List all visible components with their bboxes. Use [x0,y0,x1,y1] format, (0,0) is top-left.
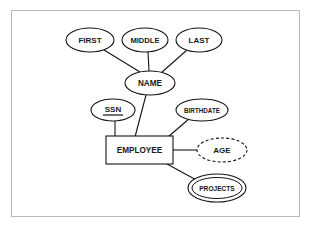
edge-name-to-employee [135,95,146,137]
attribute-node-middle[interactable]: MIDDLE [122,28,168,52]
projects-label: PROJECTS [199,185,235,192]
attribute-node-birthdate[interactable]: BIRTHDATE [176,99,228,121]
middle-label: MIDDLE [130,36,159,45]
name-label: NAME [138,79,163,88]
attribute-node-ssn[interactable]: SSN [91,99,135,121]
edge-first-to-name [104,50,140,72]
last-label: LAST [189,36,210,45]
attribute-node-age[interactable]: AGE [197,138,247,162]
age-label: AGE [213,146,231,155]
edge-birthdate-to-employee [168,118,190,137]
attribute-node-first[interactable]: FIRST [66,28,114,52]
employee-label: EMPLOYEE [117,146,163,155]
attribute-node-projects[interactable]: PROJECTS [188,174,246,202]
attribute-node-last[interactable]: LAST [176,28,222,52]
ssn-label: SSN [105,105,122,114]
birthdate-label: BIRTHDATE [184,107,220,114]
er-diagram-svg: FIRST MIDDLE LAST NAME SSN BIRTHDATE [0,0,311,229]
entity-node-employee[interactable]: EMPLOYEE [106,136,173,164]
first-label: FIRST [78,36,101,45]
edge-middle-to-name [148,52,149,71]
attribute-node-name[interactable]: NAME [125,71,175,95]
edge-last-to-name [161,50,187,73]
er-diagram-canvas: FIRST MIDDLE LAST NAME SSN BIRTHDATE [0,0,311,229]
